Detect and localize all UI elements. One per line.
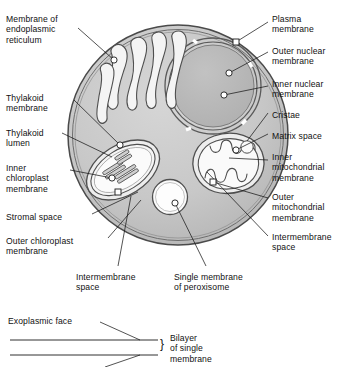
peroxisome [153, 180, 188, 215]
bilayer-inset [10, 322, 158, 367]
label-intermembrane-space-right: Intermembrane space [272, 232, 356, 253]
marker-outer-chloroplast-membrane [115, 189, 121, 195]
label-outer-mitochondrial-membrane: Outer mitochondrial membrane [272, 192, 356, 223]
label-thylakoid-lumen: Thylakoid lumen [6, 128, 86, 149]
marker-peroxisome-membrane [172, 200, 178, 206]
label-membrane-of-er: Membrane of endoplasmic reticulum [6, 14, 98, 45]
label-intermembrane-space-bottom: Intermembrane space [76, 272, 168, 293]
label-matrix-space: Matrix space [272, 131, 356, 141]
label-stromal-space: Stromal space [6, 212, 101, 222]
label-inner-chloroplast-membrane: Inner chloroplast membrane [6, 163, 86, 194]
marker-inner-nuclear-membrane [221, 92, 227, 98]
marker-outer-nuclear-membrane [226, 70, 232, 76]
label-single-membrane-of-peroxisome: Single membrane of peroxisome [174, 272, 274, 293]
label-cristae: Cristae [272, 110, 356, 120]
label-thylakoid-membrane: Thylakoid membrane [6, 93, 86, 114]
cell-diagram: Membrane of endoplasmic reticulum Thylak… [0, 0, 356, 367]
label-outer-nuclear-membrane: Outer nuclear membrane [272, 46, 356, 67]
marker-plasma-membrane [233, 39, 239, 45]
marker-inner-mito-membrane [233, 147, 239, 153]
marker-er-membrane [111, 57, 117, 63]
label-plasma-membrane: Plasma membrane [272, 14, 356, 35]
label-bilayer-of-single-membrane: Bilayer of single membrane [170, 333, 260, 364]
marker-outer-mito-membrane [210, 179, 216, 185]
label-exoplasmic-face: Exoplasmic face [8, 316, 118, 326]
mitochondrion [193, 133, 264, 193]
marker-thylakoid-membrane [117, 142, 123, 148]
marker-inner-chloroplast-membrane [109, 175, 115, 181]
label-inner-nuclear-membrane: Inner nuclear membrane [272, 79, 356, 100]
brace-glyph: } [160, 338, 164, 350]
label-inner-mitochondrial-membrane: Inner mitochondrial membrane [272, 152, 356, 183]
cytosolic-face-leader [105, 355, 140, 367]
label-outer-chloroplast-membrane: Outer chloroplast membrane [6, 236, 118, 257]
